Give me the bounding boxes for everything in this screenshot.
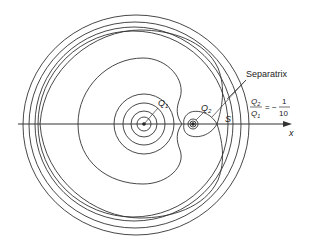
svg-text:1: 1 <box>282 97 287 106</box>
q2-leader <box>196 113 203 120</box>
charge-ratio-label: Q2 Q1 = − 1 10 <box>250 97 290 119</box>
outer-equipotential-1 <box>23 15 249 235</box>
svg-text:10: 10 <box>279 109 288 118</box>
svg-text:Q2: Q2 <box>251 97 260 107</box>
q1-label: Q1 <box>158 98 168 109</box>
charge-q2 <box>191 122 195 126</box>
equipotential-diagram: Separatrix Q1 Q2 S x Q2 Q1 = − 1 10 <box>0 0 313 248</box>
x-axis-arrowhead <box>283 121 292 127</box>
separatrix-label: Separatrix <box>246 69 288 79</box>
q2-label: Q2 <box>201 103 212 114</box>
x-axis-label: x <box>288 128 294 138</box>
svg-text:= −: = − <box>265 103 277 112</box>
q1-equipotential-bean <box>78 58 182 184</box>
svg-text:Q1: Q1 <box>251 109 260 119</box>
outer-equipotential-2 <box>29 22 241 228</box>
saddle-point-label: S <box>225 114 231 124</box>
